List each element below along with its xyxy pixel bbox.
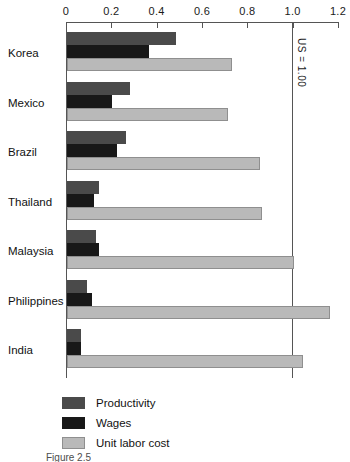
bar-productivity (67, 280, 87, 293)
x-axis-tick-label: 0.6 (194, 5, 210, 17)
x-axis-tick-mark (338, 22, 339, 28)
bar-ulc (67, 355, 303, 368)
bar-productivity (67, 181, 99, 194)
legend-swatch-wages-icon (62, 417, 85, 429)
x-axis-tick-mark (157, 22, 158, 28)
bar-productivity (67, 32, 176, 45)
bar-ulc (67, 207, 262, 220)
bar-productivity (67, 230, 96, 243)
category-label: Brazil (8, 146, 37, 158)
bar-productivity (67, 82, 130, 95)
x-axis-tick-mark (202, 22, 203, 28)
us-reference-line (292, 22, 293, 378)
x-axis-tick-mark (111, 22, 112, 28)
category-label: India (8, 344, 33, 356)
legend-item-productivity: Productivity (62, 394, 170, 411)
x-axis-tick-label: 0.4 (149, 5, 165, 17)
legend-label-unit-labor-cost: Unit labor cost (96, 437, 170, 449)
x-axis-tick-mark (66, 22, 67, 28)
x-axis-tick-label: 1.2 (330, 5, 346, 17)
bar-chart: 00.20.40.60.81.01.2 US = 1.00 KoreaMexic… (0, 0, 350, 462)
bar-wages (67, 243, 99, 256)
bar-wages (67, 144, 117, 157)
bar-ulc (67, 58, 232, 71)
category-label: Mexico (8, 97, 44, 109)
category-label: Thailand (8, 196, 52, 208)
figure-caption: Figure 2.5 (46, 452, 91, 462)
bar-wages (67, 45, 149, 58)
bar-productivity (67, 131, 126, 144)
bar-wages (67, 293, 92, 306)
x-axis-tick-label: 0.8 (239, 5, 255, 17)
us-reference-label: US = 1.00 (296, 38, 307, 87)
bar-ulc (67, 108, 228, 121)
x-axis-tick-label: 0 (63, 5, 69, 17)
legend-item-wages: Wages (62, 414, 170, 431)
category-label: Korea (8, 47, 39, 59)
bar-wages (67, 342, 81, 355)
bar-wages (67, 95, 112, 108)
category-label: Malaysia (8, 245, 53, 257)
category-label: Philippines (8, 295, 64, 307)
bar-productivity (67, 329, 81, 342)
bar-ulc (67, 306, 330, 319)
bar-ulc (67, 157, 260, 170)
x-axis-tick-label: 1.0 (285, 5, 301, 17)
x-axis-tick-mark (293, 22, 294, 28)
legend-label-wages: Wages (96, 417, 131, 429)
x-axis-tick-mark (247, 22, 248, 28)
legend-label-productivity: Productivity (96, 397, 155, 409)
chart-legend: Productivity Wages Unit labor cost (62, 394, 170, 454)
bar-ulc (67, 256, 294, 269)
x-axis-tick-label: 0.2 (103, 5, 119, 17)
bar-wages (67, 194, 94, 207)
legend-swatch-unit-labor-cost-icon (62, 437, 85, 449)
legend-item-unit-labor-cost: Unit labor cost (62, 434, 170, 451)
legend-swatch-productivity-icon (62, 397, 85, 409)
